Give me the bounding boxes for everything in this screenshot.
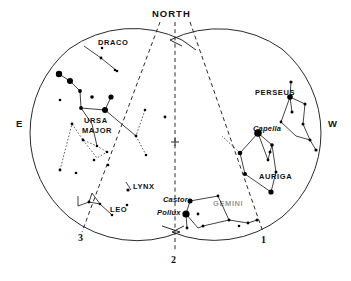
star-point bbox=[238, 151, 243, 156]
star-point bbox=[67, 78, 73, 84]
star-point bbox=[106, 151, 109, 154]
star-point bbox=[269, 151, 272, 154]
label-ursa-major-line1: URSA bbox=[84, 116, 108, 125]
star-point bbox=[56, 71, 62, 77]
star-point bbox=[99, 203, 102, 206]
star-point bbox=[238, 225, 241, 228]
label-auriga: AURIGA bbox=[259, 172, 292, 181]
star-point bbox=[197, 213, 200, 216]
star-point bbox=[267, 159, 270, 162]
star-point bbox=[182, 210, 189, 217]
star-point bbox=[217, 195, 220, 198]
star-point bbox=[78, 89, 82, 93]
auriga-line bbox=[240, 133, 276, 192]
star-point bbox=[59, 169, 62, 172]
cardinal-east: E bbox=[16, 118, 23, 129]
sky-map-svg bbox=[0, 0, 351, 281]
dotted-link-5 bbox=[136, 110, 145, 136]
star-point bbox=[304, 103, 307, 106]
star-point bbox=[268, 189, 273, 194]
star-point bbox=[93, 159, 96, 162]
meridian-label-2: 2 bbox=[171, 254, 177, 265]
star-point bbox=[88, 201, 91, 204]
star-point bbox=[108, 94, 113, 99]
star-point bbox=[270, 143, 274, 147]
dotted-link-3 bbox=[60, 124, 72, 170]
star-point bbox=[164, 116, 167, 119]
star-point bbox=[59, 99, 62, 102]
west-circle-top-arc bbox=[170, 29, 282, 49]
label-draco: DRACO bbox=[98, 38, 129, 47]
cardinal-west: W bbox=[328, 118, 338, 129]
star-point bbox=[202, 225, 205, 228]
west-circle-right-arc bbox=[282, 49, 321, 217]
star-point bbox=[243, 172, 247, 176]
star-point bbox=[79, 106, 83, 110]
star-point bbox=[135, 135, 138, 138]
star-point bbox=[309, 139, 312, 142]
top-notch-a bbox=[170, 40, 182, 46]
star-point bbox=[144, 109, 147, 112]
star-point bbox=[302, 123, 305, 126]
star-point bbox=[111, 214, 114, 217]
star-point bbox=[126, 188, 129, 191]
star-point bbox=[102, 107, 108, 113]
dotted-link-2 bbox=[83, 140, 107, 158]
star-point bbox=[96, 145, 99, 148]
ursa-major-bowl bbox=[59, 74, 111, 110]
label-gemini: GEMINI bbox=[213, 199, 243, 208]
label-leo: LEO bbox=[110, 205, 127, 214]
star-point bbox=[145, 154, 148, 157]
east-circle-left-arc bbox=[30, 49, 69, 217]
star-point bbox=[256, 219, 259, 222]
gemini-line-3 bbox=[229, 220, 257, 223]
star-point bbox=[107, 164, 110, 167]
star-point bbox=[291, 111, 294, 114]
label-lynx: LYNX bbox=[133, 182, 155, 191]
dotted-link-4 bbox=[136, 136, 146, 155]
star-point bbox=[280, 121, 283, 124]
celestial-pole-marker bbox=[171, 138, 179, 146]
star-point bbox=[228, 219, 231, 222]
star-point bbox=[186, 227, 189, 230]
star-point bbox=[247, 222, 250, 225]
label-castor: Castor bbox=[163, 195, 188, 204]
top-notch-b bbox=[182, 40, 196, 50]
star-point bbox=[289, 80, 292, 83]
star-point bbox=[314, 148, 317, 151]
label-pollux: Pollux bbox=[157, 208, 181, 217]
star-point bbox=[114, 69, 117, 72]
star-point bbox=[90, 95, 94, 99]
star-point bbox=[71, 123, 74, 126]
label-ursa-major-line2: MAJOR bbox=[82, 126, 112, 135]
east-circle-bottom-arc bbox=[69, 217, 180, 241]
star-point bbox=[75, 172, 78, 175]
star-chart-figure: NORTH E W DRACO URSA MAJOR LYNX LEO GEMI… bbox=[0, 0, 351, 281]
meridian-label-3: 3 bbox=[78, 232, 84, 243]
star-point bbox=[188, 199, 193, 204]
star-point bbox=[100, 57, 103, 60]
label-perseus: PERSEUS bbox=[255, 88, 295, 97]
meridian-label-1: 1 bbox=[261, 234, 267, 245]
star-point bbox=[101, 47, 104, 50]
star-point bbox=[82, 139, 85, 142]
leo-line bbox=[78, 196, 112, 215]
label-capella: Capella bbox=[253, 124, 281, 133]
cardinal-north: NORTH bbox=[152, 8, 191, 19]
